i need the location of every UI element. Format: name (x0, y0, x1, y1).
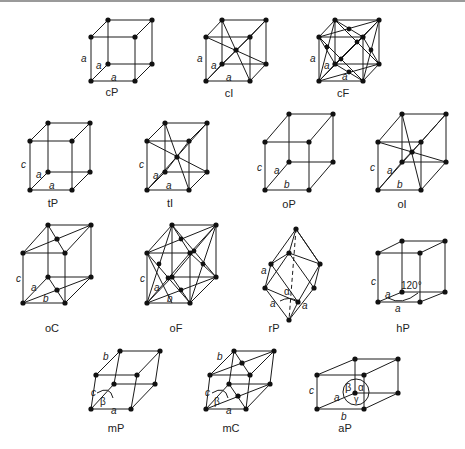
edge-label: c (205, 388, 210, 398)
edge-label: a (96, 61, 102, 71)
edge-label: c (309, 386, 314, 396)
lattice-name: oC (45, 323, 59, 334)
edge-label: b (397, 180, 403, 190)
edge-label: a (211, 61, 217, 71)
lattice-name: oP (282, 199, 295, 210)
edge-label: c (370, 163, 375, 173)
edge-label: a (111, 73, 117, 83)
lattice-oC (20, 222, 93, 305)
angle-label: α (284, 287, 290, 297)
edge-label: a (197, 54, 203, 64)
edge-label: a (274, 166, 280, 176)
edge-label: a (385, 290, 391, 300)
lattice-name: tI (167, 198, 173, 209)
edge-label: b (167, 294, 173, 304)
lattice-cP (88, 17, 154, 83)
edge-label: c (91, 388, 96, 398)
lattice-name: cI (225, 88, 234, 99)
edge-label: a (81, 54, 87, 64)
edge-label: b (341, 412, 347, 422)
angle-label: β (214, 397, 220, 407)
edge-label: a (166, 181, 172, 191)
lattice-name: mP (108, 423, 125, 434)
lattice-cI (203, 17, 268, 83)
edge-label: a (334, 393, 340, 403)
angle-label-gamma: γ (354, 395, 359, 404)
edge-label: b (43, 294, 49, 304)
edge-label: a (395, 304, 401, 314)
edge-label: a (226, 406, 232, 416)
angle-label: β (100, 397, 106, 407)
angle-label-alpha: α (358, 383, 364, 393)
edge-label: c (140, 274, 145, 284)
edge-label: a (111, 406, 117, 416)
edge-label: a (342, 72, 348, 82)
edge-label: a (226, 73, 232, 83)
edge-label: a (154, 283, 160, 293)
edge-label: a (387, 166, 393, 176)
lattice-tI (144, 120, 209, 192)
edge-label: a (153, 171, 159, 181)
lattice-name: hP (396, 323, 409, 334)
lattice-cF (316, 17, 381, 83)
lattice-name: cP (106, 87, 119, 98)
edge-label: a (31, 283, 37, 293)
edge-label: b (103, 352, 109, 362)
lattice-name: rP (269, 323, 280, 334)
edge-label: a (261, 266, 267, 276)
bravais-lattice-diagram (0, 0, 465, 449)
edge-label: b (284, 180, 290, 190)
edge-label: a (270, 299, 276, 309)
lattice-name: mC (222, 423, 239, 434)
lattice-name: oI (397, 199, 406, 210)
edge-label: c (21, 160, 26, 170)
edge-label: a (49, 181, 55, 191)
edge-label: c (371, 277, 376, 287)
edge-label: a (310, 54, 316, 64)
angle-label: 120° (401, 281, 422, 291)
edge-label: a (302, 301, 308, 311)
edge-label: a (324, 61, 330, 71)
edge-label: c (257, 163, 262, 173)
lattice-name: tP (48, 198, 58, 209)
lattice-oP (262, 111, 335, 192)
lattice-oI (375, 111, 448, 192)
lattice-tP (27, 120, 92, 192)
lattice-name: cF (337, 88, 349, 99)
angle-label-beta: β (345, 382, 351, 393)
lattice-oF (144, 222, 218, 305)
lattice-name: aP (338, 423, 351, 434)
lattice-name: oF (170, 323, 183, 334)
edge-label: b (217, 352, 223, 362)
edge-label: c (139, 160, 144, 170)
edge-label: a (36, 170, 42, 180)
edge-label: c (16, 274, 21, 284)
